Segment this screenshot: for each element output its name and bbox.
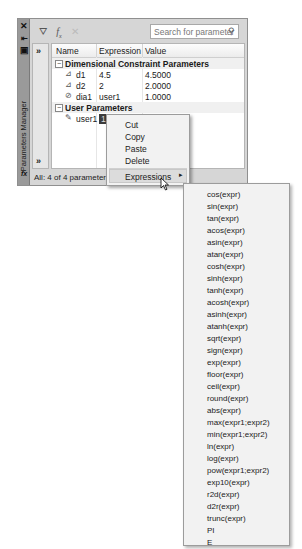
submenu-item[interactable]: min(expr1;expr2) (207, 430, 267, 439)
fx-icon: fx (19, 169, 29, 178)
submenu-item[interactable]: cos(expr) (207, 190, 240, 199)
new-user-parameter-icon[interactable]: fx (52, 26, 66, 38)
submenu-item[interactable]: atanh(expr) (207, 322, 248, 331)
submenu-item[interactable]: sinh(expr) (207, 274, 243, 283)
search-input[interactable]: Search for parameter ⚲ (150, 24, 239, 39)
submenu-item[interactable]: sign(expr) (207, 346, 243, 355)
group-user-parameters[interactable]: − User Parameters (52, 102, 244, 113)
submenu-item[interactable]: max(expr1;expr2) (207, 418, 270, 427)
submenu-item[interactable]: sqrt(expr) (207, 334, 241, 343)
search-icon[interactable]: ⚲ (228, 26, 235, 36)
dimension-parameter-icon: ⊿ (65, 69, 72, 78)
submenu-item[interactable]: trunc(expr) (207, 514, 246, 523)
table-row[interactable]: ⊿ d1 4.5 4.5000 (52, 69, 244, 80)
menu-item-paste[interactable]: Paste (125, 144, 147, 154)
submenu-item[interactable]: pow(expr1;expr2) (207, 466, 269, 475)
group-dimensional[interactable]: − Dimensional Constraint Parameters (52, 58, 244, 69)
submenu-item[interactable]: abs(expr) (207, 406, 241, 415)
submenu-arrow-icon: ▸ (179, 171, 183, 179)
grid-header: Name Expression Value (52, 44, 244, 58)
mouse-cursor-icon (160, 177, 170, 191)
collapse-toggle-icon[interactable]: − (55, 60, 63, 68)
submenu-item[interactable]: tan(expr) (207, 214, 239, 223)
column-expression[interactable]: Expression (99, 46, 141, 56)
submenu-item[interactable]: acos(expr) (207, 226, 245, 235)
submenu-item[interactable]: floor(expr) (207, 370, 243, 379)
table-row[interactable]: ⊿ d2 2 2.0000 (52, 80, 244, 91)
submenu-item[interactable]: atan(expr) (207, 250, 243, 259)
auto-hide-icon[interactable]: ⇤ (19, 34, 29, 43)
menu-item-cut[interactable]: Cut (125, 120, 138, 130)
context-menu: Cut Copy Paste Delete Expressions ▸ (106, 114, 190, 186)
table-row[interactable]: ⊘ dia1 user1 1.0000 (52, 91, 244, 102)
submenu-item[interactable]: exp10(expr) (207, 478, 250, 487)
properties-icon[interactable]: ▣ (19, 46, 29, 55)
collapse-toggle-icon[interactable]: − (55, 104, 63, 112)
diameter-parameter-icon: ⊘ (65, 91, 72, 100)
toolbar: ⛛ fx ✕ Search for parameter ⚲ (32, 21, 245, 43)
palette-title: Parameters Manager (19, 96, 29, 176)
submenu-item[interactable]: asinh(expr) (207, 310, 247, 319)
submenu-item[interactable]: ceil(expr) (207, 382, 240, 391)
new-parameter-icon[interactable]: ⛛ (36, 26, 50, 38)
dimension-parameter-icon: ⊿ (65, 80, 72, 89)
user-parameter-icon: ✎ (65, 113, 72, 122)
close-icon[interactable]: ✕ (19, 22, 29, 31)
submenu-item[interactable]: log(expr) (207, 454, 239, 463)
submenu-item[interactable]: asin(expr) (207, 238, 243, 247)
submenu-item[interactable]: ln(expr) (207, 442, 234, 451)
palette-title-strip[interactable]: ✕ ⇤ ▣ Parameters Manager fx (18, 19, 30, 185)
submenu-item[interactable]: round(expr) (207, 394, 248, 403)
submenu-item[interactable]: d2r(expr) (207, 502, 239, 511)
submenu-item[interactable]: acosh(expr) (207, 298, 249, 307)
expressions-submenu: cos(expr) sin(expr) tan(expr) acos(expr)… (183, 183, 290, 546)
column-name[interactable]: Name (56, 46, 79, 56)
menu-item-copy[interactable]: Copy (125, 132, 145, 142)
menu-item-delete[interactable]: Delete (125, 156, 150, 166)
expand-filter-chevron-bottom-icon[interactable]: » (36, 156, 41, 166)
submenu-item[interactable]: sin(expr) (207, 202, 238, 211)
submenu-item[interactable]: r2d(expr) (207, 490, 239, 499)
submenu-item[interactable]: tanh(expr) (207, 286, 243, 295)
search-placeholder: Search for parameter (154, 27, 234, 37)
submenu-item[interactable]: E (207, 538, 212, 547)
delete-parameter-icon[interactable]: ✕ (68, 26, 82, 38)
filter-tree-bar: » » (32, 43, 49, 169)
submenu-item[interactable]: cosh(expr) (207, 262, 245, 271)
submenu-item[interactable]: exp(expr) (207, 358, 241, 367)
submenu-item[interactable]: PI (207, 526, 215, 535)
expand-filter-chevron-icon[interactable]: » (36, 46, 41, 56)
column-value[interactable]: Value (145, 46, 166, 56)
